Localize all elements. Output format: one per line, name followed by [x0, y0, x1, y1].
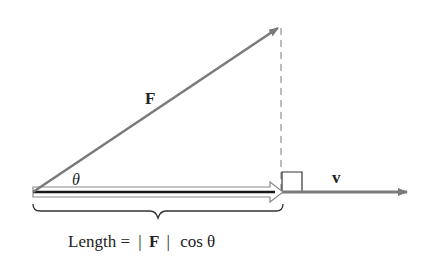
right-angle-marker — [282, 172, 302, 192]
F-label: F — [145, 89, 155, 108]
F-vector-arrow — [33, 28, 278, 192]
length-formula: Length = | F | cos θ — [68, 232, 215, 251]
length-prefix: Length = — [68, 232, 134, 251]
projection-diagram: F θ v Length = | F | cos θ — [0, 0, 439, 271]
projection-arrow — [33, 182, 283, 202]
length-suffix: cos θ — [180, 232, 215, 251]
v-label: v — [332, 168, 341, 187]
length-brace — [33, 204, 283, 218]
theta-label: θ — [72, 171, 80, 188]
abs-close: | — [167, 232, 170, 251]
length-F: F — [149, 232, 159, 251]
abs-open: | — [138, 232, 141, 251]
